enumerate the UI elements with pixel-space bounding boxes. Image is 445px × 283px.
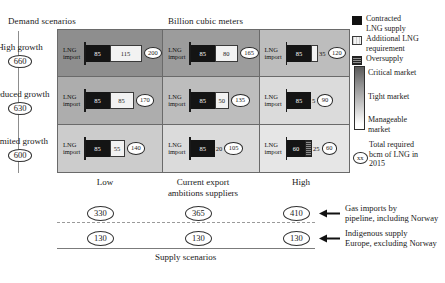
lng-import-label: LNG import (168, 93, 188, 107)
legend-text: Contracted LNG supply (366, 14, 406, 33)
matrix-cell[interactable]: LNG import 85 50 135 (163, 77, 259, 124)
lng-import-label: LNG import (63, 141, 83, 155)
column-label-line1: High (252, 177, 350, 188)
stacked-bar: 85 55 140 (84, 137, 145, 160)
row-label-high-growth: High growth 660 (0, 42, 58, 68)
additional-value: 20 (216, 145, 223, 152)
total-badge: 135 (231, 94, 250, 107)
indigenous-arrow-icon (319, 234, 341, 243)
contracted-segment: 85 (86, 92, 110, 109)
matrix-cell[interactable]: LNG import 85 20 105 (163, 125, 259, 172)
contracted-segment: 85 (287, 92, 311, 109)
legend-line2: requirement (366, 44, 419, 54)
oversupply-swatch-icon (352, 56, 362, 65)
lng-import-label: LNG import (63, 93, 83, 107)
stacked-bar: 85 20 105 (189, 137, 243, 160)
pipeline-value-low: 330 (87, 206, 114, 221)
additional-segment: 85 (110, 92, 134, 109)
contracted-segment: 85 (287, 45, 311, 62)
lng-import-label: LNG import (265, 93, 285, 107)
matrix-cell[interactable]: LNG import 85 5 90 (260, 77, 350, 124)
matrix-cell[interactable]: LNG import 85 85 170 (58, 77, 163, 124)
pipeline-divider (57, 222, 315, 223)
stacked-bar: 60 25 60 (286, 137, 338, 160)
indigenous-value-current: 130 (185, 231, 212, 246)
legend: Contracted LNG supply Additional LNG req… (352, 14, 444, 66)
row-name: Limited growth (0, 136, 58, 147)
additional-value: 35 (319, 50, 326, 57)
total-key-line3: 2015 (369, 159, 445, 169)
matrix-cell[interactable]: LNG import 85 80 165 (163, 30, 259, 77)
legend-item-oversupply: Oversupply (352, 54, 444, 65)
annotation-line1: Indigenous supply (345, 228, 445, 238)
total-key-text: Total required bcm of LNG in 2015 (369, 140, 445, 169)
contracted-segment: 85 (191, 92, 215, 109)
row-value-badge: 660 (8, 55, 33, 68)
contracted-segment: 85 (191, 45, 215, 62)
lng-import-label: LNG import (265, 46, 285, 60)
gradient-label-manageable: Manageable market (368, 115, 407, 134)
indigenous-value-high: 130 (283, 231, 310, 246)
contracted-swatch-icon (352, 16, 362, 25)
row-value-badge: 600 (8, 149, 33, 162)
total-badge: 60 (322, 142, 338, 155)
units-header: Billion cubic meters (168, 16, 243, 26)
gradient-label-line2: market (368, 125, 407, 135)
stacked-bar: 85 85 170 (84, 89, 154, 112)
additional-swatch-icon (352, 36, 362, 45)
matrix-cell[interactable]: LNG import 85 35 120 (260, 30, 350, 77)
row-name: Reduced growth (0, 89, 58, 100)
annotation-line2: Europe, excluding Norway (345, 238, 445, 248)
row-value-badge: 630 (8, 102, 33, 115)
gradient-label-critical: Critical market (368, 68, 416, 78)
pipeline-annotation: Gas imports by pipeline, including Norwa… (345, 203, 445, 223)
legend-item-additional: Additional LNG requirement (352, 34, 444, 53)
demand-scenarios-header: Demand scenarios (8, 16, 76, 26)
column-label-line1: Current export (154, 177, 252, 188)
additional-segment: 115 (110, 45, 142, 62)
annotation-line1: Gas imports by (345, 203, 445, 213)
contracted-segment: 60 (287, 140, 305, 157)
legend-line1: Contracted (366, 14, 406, 24)
total-badge: 105 (224, 142, 243, 155)
column-label-high: High (252, 177, 350, 188)
oversupply-segment (305, 140, 312, 157)
legend-line1: Oversupply (366, 54, 403, 64)
legend-item-contracted: Contracted LNG supply (352, 14, 444, 33)
row-name: High growth (0, 42, 58, 53)
indigenous-value-low: 130 (87, 231, 114, 246)
annotation-line2: pipeline, including Norway (345, 213, 445, 223)
column-label-low: Low (56, 177, 154, 188)
contracted-segment: 85 (86, 140, 110, 157)
indigenous-divider (57, 248, 315, 249)
total-key-line2: bcm of LNG in (369, 150, 445, 160)
stacked-bar: 85 115 200 (84, 42, 162, 65)
market-gradient-bar (354, 66, 365, 130)
additional-value: 5 (312, 97, 315, 104)
matrix-cell[interactable]: LNG import 85 115 200 (58, 30, 163, 77)
total-badge: 90 (317, 94, 333, 107)
additional-segment: 80 (215, 45, 238, 62)
additional-segment: 50 (215, 92, 229, 109)
legend-text: Additional LNG requirement (366, 34, 419, 53)
total-badge: 140 (127, 142, 146, 155)
stacked-bar: 85 50 135 (189, 89, 249, 112)
stacked-bar: 85 5 90 (286, 89, 333, 112)
total-key-badge-icon: xx (353, 146, 368, 164)
total-key-line1: Total required (369, 140, 445, 150)
lng-import-label: LNG import (265, 141, 285, 155)
lng-import-label: LNG import (168, 141, 188, 155)
oversupply-value: 25 (313, 145, 320, 152)
matrix-cell[interactable]: LNG import 60 25 60 (260, 125, 350, 172)
column-label-line2: ambitions suppliers (154, 188, 252, 199)
contracted-segment: 85 (191, 140, 215, 157)
total-badge: 170 (136, 94, 155, 107)
row-label-reduced-growth: Reduced growth 630 (0, 89, 58, 115)
figure-root: Demand scenarios Billion cubic meters Hi… (0, 0, 445, 283)
matrix-cell[interactable]: LNG import 85 55 140 (58, 125, 163, 172)
scenario-matrix: LNG import 85 115 200 LNG import 85 80 1… (57, 29, 350, 173)
stacked-bar: 85 35 120 (286, 42, 347, 65)
indigenous-annotation: Indigenous supply Europe, excluding Norw… (345, 228, 445, 248)
contracted-segment: 85 (86, 45, 110, 62)
additional-segment: 55 (110, 140, 125, 157)
